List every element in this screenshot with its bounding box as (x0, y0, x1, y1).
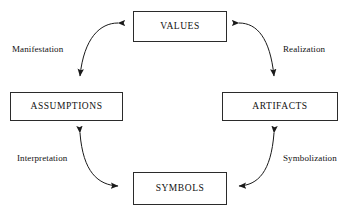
node-artifacts-label: ARTIFACTS (252, 102, 307, 112)
node-assumptions-label: ASSUMPTIONS (30, 102, 102, 112)
edge-label-symbolization: Symbolization (283, 154, 337, 163)
edge-label-realization: Realization (283, 45, 325, 54)
edge-interpretation-path (80, 133, 118, 186)
edge-symbolization-path (239, 133, 274, 186)
edge-realization-path (239, 23, 274, 76)
node-values-label: VALUES (160, 22, 200, 32)
edge-manifestation-path (80, 23, 118, 76)
node-artifacts: ARTIFACTS (222, 92, 338, 121)
edge-label-interpretation: Interpretation (17, 154, 67, 163)
node-symbols: SYMBOLS (133, 172, 227, 205)
edge-label-manifestation: Manifestation (12, 45, 63, 54)
node-assumptions: ASSUMPTIONS (10, 92, 123, 121)
cycle-diagram: VALUES ASSUMPTIONS ARTIFACTS SYMBOLS Man… (0, 0, 349, 217)
node-values: VALUES (133, 11, 227, 42)
node-symbols-label: SYMBOLS (156, 184, 205, 194)
